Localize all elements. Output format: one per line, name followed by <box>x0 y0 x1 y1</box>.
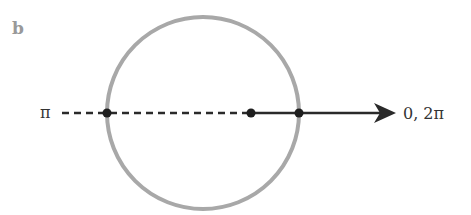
label-pi: π <box>40 103 51 122</box>
label-zero-two-pi: 0, 2π <box>403 104 444 123</box>
point-center-offset <box>247 109 256 118</box>
point-left-intersection <box>103 109 112 118</box>
point-right-intersection <box>295 109 304 118</box>
panel-label: b <box>12 18 24 38</box>
diagram: b π 0, 2π <box>0 0 471 215</box>
